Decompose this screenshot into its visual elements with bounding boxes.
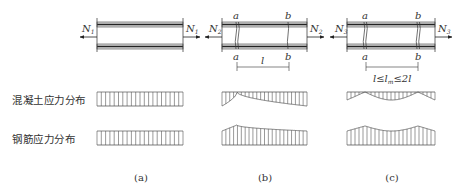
force-label-right-a: N1 xyxy=(185,23,199,35)
section-label-b-top: b xyxy=(285,10,291,21)
row-label-steel: 钢筋应力分布 xyxy=(12,131,75,146)
svg-text:b: b xyxy=(415,51,421,62)
concrete-stress-b xyxy=(222,92,307,106)
svg-text:b: b xyxy=(415,10,421,21)
member-c: a b a b l≤lm≤2l N3 N3 xyxy=(330,10,452,85)
force-label-left-a: N1 xyxy=(81,23,95,35)
dimension-label-c: l≤lm≤2l xyxy=(373,73,411,85)
dimension-label-b: l xyxy=(261,55,264,66)
caption-a: (a) xyxy=(134,172,148,183)
force-label-right-b: N2 xyxy=(309,23,323,35)
steel-stress-a xyxy=(97,131,183,145)
row-label-concrete: 混凝土应力分布 xyxy=(12,92,86,107)
section-label-a-bottom: a xyxy=(233,51,239,62)
steel-stress-c xyxy=(347,126,435,145)
svg-text:a: a xyxy=(362,10,368,21)
concrete-stress-a xyxy=(97,92,183,106)
member-a: N1 N1 xyxy=(80,18,200,52)
caption-c: (c) xyxy=(385,172,398,183)
concrete-stress-c xyxy=(347,92,435,100)
steel-stress-b xyxy=(222,125,307,145)
force-label-left-b: N2 xyxy=(208,23,222,35)
force-label-left-c: N3 xyxy=(334,23,348,35)
force-label-right-c: N3 xyxy=(437,23,451,35)
caption-b: (b) xyxy=(258,172,272,183)
section-label-b-bottom: b xyxy=(285,51,291,62)
svg-text:a: a xyxy=(362,51,368,62)
section-label-a-top: a xyxy=(233,10,239,21)
member-b: a b a b l N2 N2 xyxy=(205,10,324,71)
